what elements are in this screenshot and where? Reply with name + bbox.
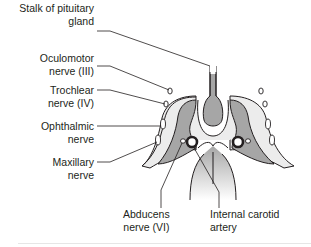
cavernous-sinus-diagram: Stalk of pituitary gland Oculomotor nerv…: [0, 0, 311, 247]
stalk-top: [210, 64, 216, 74]
label-internal-carotid-artery: Internal carotid artery: [210, 208, 279, 234]
label-line: Internal carotid: [210, 208, 279, 221]
leader-trochlear: [97, 90, 165, 104]
right-trochlear-nerve: [263, 101, 267, 107]
label-line: Trochlear: [48, 84, 94, 97]
right-abducens-nerve: [246, 139, 251, 143]
label-line: nerve: [53, 169, 94, 182]
label-line: Ophthalmic: [41, 120, 94, 133]
left-oculomotor-nerve: [168, 88, 172, 94]
right-oculomotor-nerve: [259, 88, 263, 94]
label-maxillary-nerve: Maxillary nerve: [53, 156, 94, 182]
right-internal-carotid: [233, 137, 243, 147]
label-stalk-of-pituitary-gland: Stalk of pituitary gland: [19, 2, 94, 28]
label-ophthalmic-nerve: Ophthalmic nerve: [41, 120, 94, 146]
label-oculomotor-nerve: Oculomotor nerve (III): [40, 52, 94, 78]
label-line: nerve: [41, 133, 94, 146]
left-internal-carotid: [187, 137, 197, 147]
bottom-divider: [18, 243, 311, 244]
label-line: Abducens: [123, 208, 170, 221]
label-line: nerve (VI): [123, 221, 170, 234]
right-ophthalmic-nerve: [266, 119, 271, 129]
label-line: gland: [19, 15, 94, 28]
label-line: Oculomotor: [40, 52, 94, 65]
label-line: nerve (III): [40, 65, 94, 78]
label-abducens-nerve: Abducens nerve (VI): [123, 208, 170, 234]
label-line: Maxillary: [53, 156, 94, 169]
leader-stalk: [97, 31, 210, 66]
right-maxillary-nerve: [270, 135, 275, 145]
label-line: nerve (IV): [48, 97, 94, 110]
left-abducens-nerve: [181, 139, 186, 143]
pituitary-gland: [203, 66, 223, 126]
left-ophthalmic-nerve: [161, 119, 166, 129]
leader-oculomotor: [97, 66, 169, 90]
left-maxillary-nerve: [156, 135, 161, 145]
label-line: artery: [210, 221, 279, 234]
label-trochlear-nerve: Trochlear nerve (IV): [48, 84, 94, 110]
label-line: Stalk of pituitary: [19, 2, 94, 15]
